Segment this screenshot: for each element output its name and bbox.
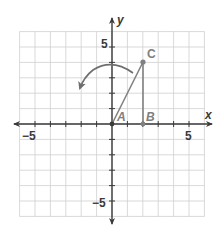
y-tick-label-5: 5 [101, 37, 108, 51]
y-tick-label-neg5: −5 [92, 196, 106, 210]
point-b-label: B [146, 110, 155, 124]
point-b [141, 122, 146, 127]
point-c-label: C [147, 47, 156, 61]
point-c [140, 59, 145, 64]
x-tick-label-neg5: −5 [22, 129, 36, 143]
point-a-label: A [116, 110, 126, 124]
point-a [110, 122, 115, 127]
rotation-arrow-icon [80, 65, 133, 88]
coordinate-plane-diagram: x y −5 5 5 −5 A B C [0, 0, 220, 229]
x-axis-label: x [204, 108, 213, 122]
x-tick-label-5: 5 [185, 129, 192, 143]
y-axis-label: y [116, 13, 125, 27]
